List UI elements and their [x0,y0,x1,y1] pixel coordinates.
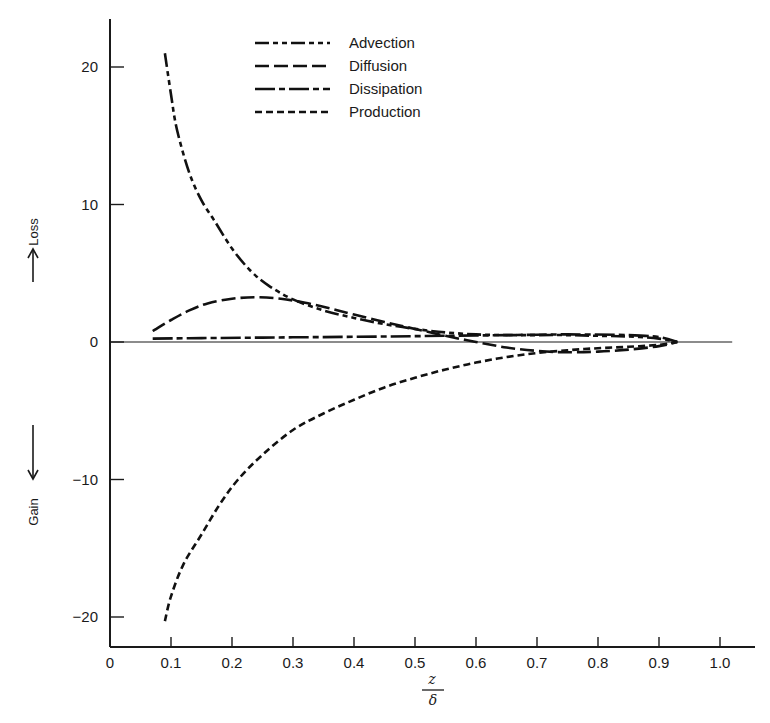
x-tick-label: 0.9 [649,654,670,671]
x-label-numerator: z [427,671,436,687]
y-tick-label: 0 [90,333,98,350]
down-arrow-icon [28,425,38,479]
legend-item: Diffusion [255,57,407,74]
x-tick-label: 1.0 [710,654,731,671]
series-production [165,342,677,621]
legend-item: Dissipation [255,80,422,97]
x-tick-label: 0.4 [344,654,365,671]
legend-label: Dissipation [349,80,422,97]
y-tick-label: 20 [81,58,98,75]
x-tick-label: 0.2 [222,654,243,671]
loss-label: Loss [26,218,41,246]
series-dissipation [153,334,678,342]
x-ticks: 00.10.20.30.40.50.60.70.80.91.0 [106,637,731,671]
gain-label: Gain [26,498,41,525]
legend-item: Production [255,103,421,120]
x-tick-label: 0 [106,654,114,671]
gain-annotation: Gain [26,425,41,526]
x-tick-label: 0.7 [527,654,548,671]
x-axis-label: z δ [422,671,444,708]
y-tick-label: −20 [73,608,98,625]
x-tick-label: 0.6 [466,654,487,671]
legend-label: Diffusion [349,57,407,74]
x-tick-label: 0.8 [588,654,609,671]
legend-item: Advection [255,34,415,51]
loss-annotation: Loss [26,218,41,282]
y-tick-label: 10 [81,196,98,213]
up-arrow-icon [28,249,38,282]
legend-label: Advection [349,34,415,51]
legend-label: Production [349,103,421,120]
series-group [153,53,678,621]
x-tick-label: 0.3 [283,654,304,671]
budget-chart: 00.10.20.30.40.50.60.70.80.91.0 20100−10… [0,0,770,723]
x-label-denominator: δ [429,692,437,708]
x-tick-label: 0.1 [161,654,182,671]
series-diffusion [153,297,678,352]
legend: AdvectionDiffusionDissipationProduction [255,34,422,120]
y-ticks: 20100−10−20 [73,58,124,625]
y-tick-label: −10 [73,471,98,488]
x-tick-label: 0.5 [405,654,426,671]
